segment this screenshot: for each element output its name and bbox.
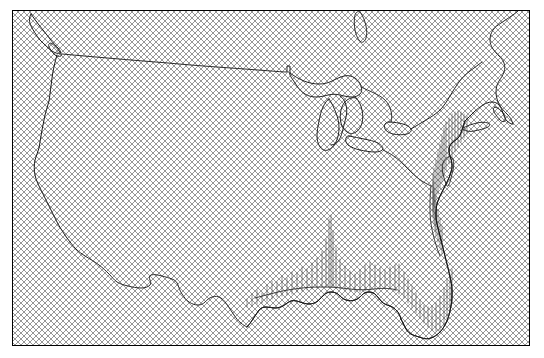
map-figure: [0, 0, 544, 358]
map-canvas: [0, 0, 544, 358]
